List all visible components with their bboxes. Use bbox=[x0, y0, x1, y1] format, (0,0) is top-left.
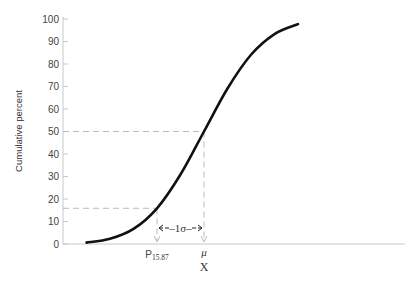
cumulative-percent-chart: 0102030405060708090100 P15.87μ–1σ– Cumul… bbox=[0, 0, 416, 282]
series-line-cumulative-normal bbox=[87, 24, 299, 242]
y-axis-title: Cumulative percent bbox=[13, 90, 24, 172]
x-axis-title: X bbox=[200, 260, 209, 274]
annotations: P15.87μ–1σ– bbox=[145, 222, 207, 262]
p-label-subscript: 15.87 bbox=[152, 253, 169, 262]
y-tick-label: 70 bbox=[48, 81, 60, 92]
y-tick-label: 10 bbox=[48, 216, 60, 227]
y-tick-label: 20 bbox=[48, 194, 60, 205]
p-15-87-label: P15.87 bbox=[145, 249, 169, 262]
y-tick-label: 30 bbox=[48, 171, 60, 182]
series-group bbox=[86, 24, 298, 242]
y-tick-label: 40 bbox=[48, 149, 60, 160]
y-tick-label: 100 bbox=[42, 14, 59, 25]
y-tick-label: 60 bbox=[48, 104, 60, 115]
y-tick-label: 90 bbox=[48, 36, 60, 47]
y-tick-label: 0 bbox=[53, 239, 59, 250]
y-tick-label: 80 bbox=[48, 59, 60, 70]
one-sigma-label: –1σ– bbox=[168, 222, 192, 234]
y-tick-label: 50 bbox=[48, 126, 60, 137]
mu-label: μ bbox=[200, 246, 207, 258]
